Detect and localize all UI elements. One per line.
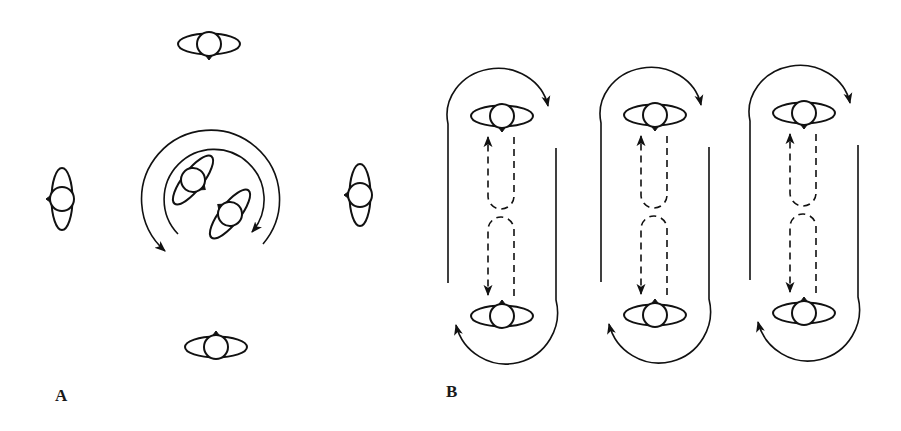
dashed-up-arrow xyxy=(488,137,514,209)
figure-bottom xyxy=(471,300,533,328)
top-arc-arrow xyxy=(600,67,701,282)
racetrack-column-3 xyxy=(749,65,859,361)
top-arc-arrow xyxy=(447,68,548,283)
racetrack-column-1 xyxy=(447,68,557,364)
figure-center-upper xyxy=(165,149,224,213)
dashed-down-arrow xyxy=(790,214,816,293)
panel-b xyxy=(447,65,859,364)
panel-a xyxy=(46,32,372,359)
figure-top xyxy=(773,101,835,129)
figure-top xyxy=(178,32,240,60)
figure-bottom xyxy=(624,299,686,327)
figure-bottom xyxy=(773,297,835,325)
figure-top xyxy=(624,103,686,131)
figure-bottom xyxy=(185,331,247,359)
top-arc-arrow xyxy=(749,65,850,280)
dashed-up-arrow xyxy=(790,134,816,206)
dashed-up-arrow xyxy=(641,136,667,208)
bottom-arc-arrow xyxy=(609,147,711,363)
panel-b-label: B xyxy=(446,382,457,402)
figure-top xyxy=(471,104,533,132)
dashed-down-arrow xyxy=(488,217,514,296)
bottom-arc-arrow xyxy=(758,145,860,361)
diagram-canvas xyxy=(0,0,901,431)
racetrack-column-2 xyxy=(600,67,710,363)
panel-a-label: A xyxy=(55,386,67,406)
bottom-arc-arrow xyxy=(456,148,558,364)
figure-left xyxy=(46,168,74,230)
dashed-down-arrow xyxy=(641,216,667,295)
figure-center-lower xyxy=(199,181,258,245)
figure-right xyxy=(344,164,372,226)
